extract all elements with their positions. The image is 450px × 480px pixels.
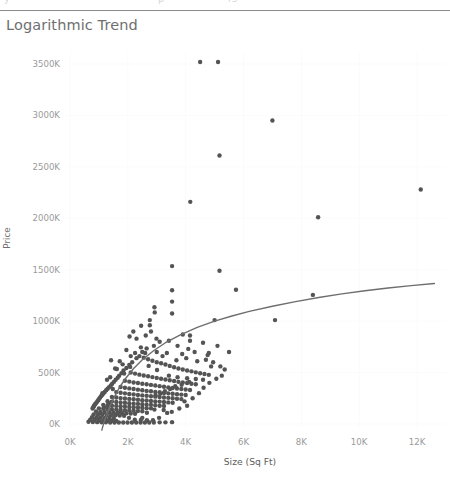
x-tick-label: 10K bbox=[351, 437, 368, 447]
y-tick-label: 2500K bbox=[18, 162, 60, 172]
x-tick-label: 8K bbox=[296, 437, 307, 447]
chart-root: y p rs Logarithmic Trend 0K500K1000K1500… bbox=[0, 0, 450, 480]
x-tick-label: 12K bbox=[409, 437, 426, 447]
y-tick-label: 1500K bbox=[18, 265, 60, 275]
trendline bbox=[102, 284, 435, 431]
y-tick-label: 500K bbox=[18, 368, 60, 378]
y-tick-label: 1000K bbox=[18, 316, 60, 326]
x-tick-label: 4K bbox=[180, 437, 191, 447]
x-tick-label: 0K bbox=[64, 437, 75, 447]
x-tick-label: 2K bbox=[122, 437, 133, 447]
x-tick-label: 6K bbox=[238, 437, 249, 447]
plot-area: 0K500K1000K1500K2000K2500K3000K3500K 0K2… bbox=[0, 0, 450, 480]
y-tick-label: 3000K bbox=[18, 110, 60, 120]
x-axis-title: Size (Sq Ft) bbox=[224, 456, 276, 467]
y-axis-title: Price bbox=[2, 227, 12, 248]
y-tick-label: 3500K bbox=[18, 59, 60, 69]
trendline-layer bbox=[0, 0, 450, 480]
y-tick-label: 2000K bbox=[18, 213, 60, 223]
y-tick-label: 0K bbox=[18, 419, 60, 429]
